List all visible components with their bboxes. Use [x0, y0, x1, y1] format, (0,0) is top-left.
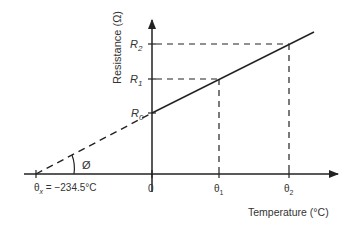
- label-r1: R1: [130, 73, 142, 88]
- label-r2: R2: [130, 38, 143, 53]
- angle-label: Ø: [82, 159, 91, 171]
- label-r0: R0: [131, 107, 144, 122]
- y-axis-label: Resistance (Ω): [111, 11, 123, 84]
- angle-arc: [72, 155, 74, 174]
- extrapolation-line: [36, 113, 152, 174]
- label-theta-x: θx = −234.5°C: [34, 182, 97, 195]
- label-theta-1: θ1: [214, 183, 224, 196]
- label-theta-2: θ2: [284, 183, 294, 196]
- x-axis-label: Temperature (°C): [248, 206, 329, 218]
- resistance-temperature-diagram: Resistance (Ω) R2 R1 R0 0 θ1 θ2 θx = −23…: [0, 0, 356, 228]
- label-origin: 0: [148, 183, 154, 194]
